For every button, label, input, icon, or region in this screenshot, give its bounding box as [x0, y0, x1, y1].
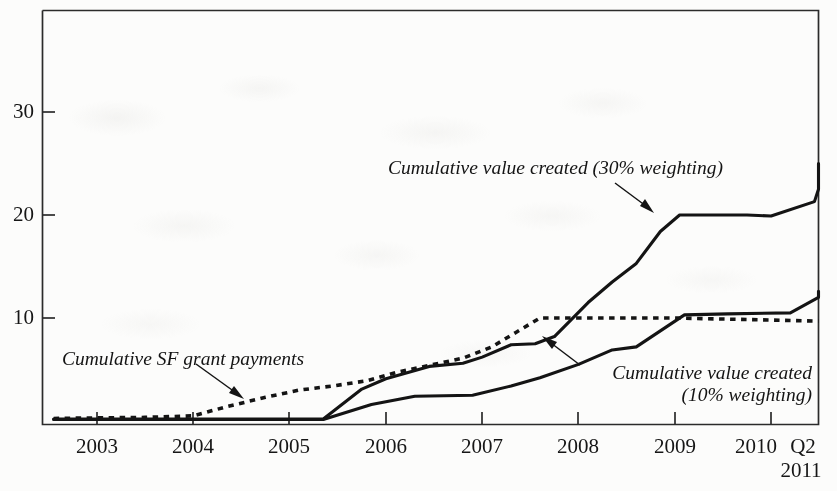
annot-30-weighting-label: Cumulative value created (30% weighting)	[388, 157, 723, 179]
chart-figure: 30 20 10 2003 2004 2005 2006 2007 2008 2…	[0, 0, 837, 491]
y-tick-label-20: 20	[0, 202, 34, 227]
x-tick-label-2005: 2005	[249, 434, 329, 459]
y-tick-label-10: 10	[0, 305, 34, 330]
annot-sf-grant-payments-label: Cumulative SF grant payments	[62, 348, 304, 370]
line-chart-canvas	[0, 0, 837, 491]
x-tick-label-2007: 2007	[442, 434, 522, 459]
x-tick-label-2008: 2008	[538, 434, 618, 459]
y-tick-label-30: 30	[0, 99, 34, 124]
x-tick-label-2009: 2009	[635, 434, 715, 459]
annot-10-weighting-label: Cumulative value created (10% weighting)	[540, 362, 812, 406]
x-tick-label-2006: 2006	[346, 434, 426, 459]
x-tick-label-2003: 2003	[57, 434, 137, 459]
x-tick-label-2004: 2004	[153, 434, 233, 459]
x-tick-label-q2: Q2	[781, 434, 825, 459]
x-tick-sublabel-2011: 2011	[771, 458, 831, 483]
annot-10-weighting-arrow	[542, 336, 580, 365]
annot-30-weighting-arrow	[615, 183, 654, 213]
y-axis-ticks	[42, 112, 55, 318]
